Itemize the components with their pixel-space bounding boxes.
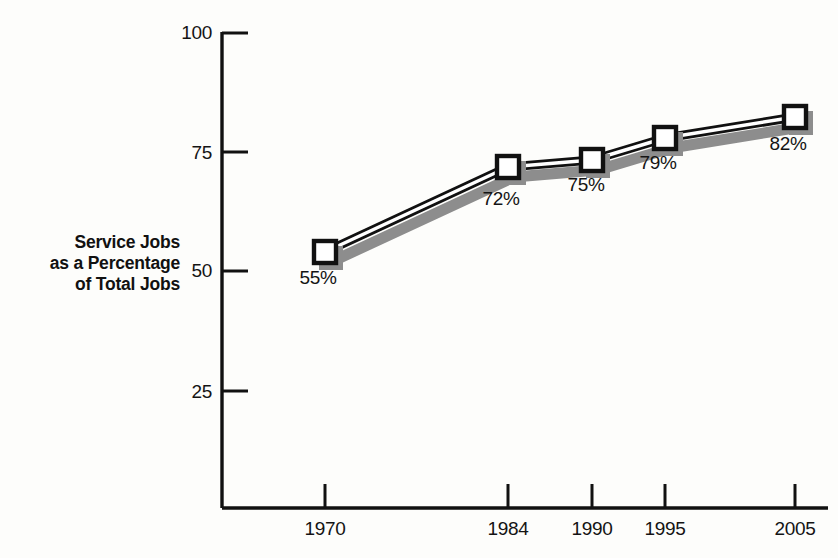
x-tick-label-1984: 1984 (473, 518, 543, 540)
marker-1995[interactable] (654, 127, 676, 149)
marker-1970[interactable] (314, 241, 336, 263)
marker-1984[interactable] (497, 156, 519, 178)
data-label-1990: 75% (556, 174, 616, 196)
data-label-1970: 55% (288, 267, 348, 289)
y-tick-label-25: 25 (160, 381, 212, 403)
y-tick-label-100: 100 (160, 22, 212, 44)
x-axis-ticks (325, 484, 795, 508)
y-tick-label-75: 75 (160, 142, 212, 164)
data-label-2005: 82% (758, 133, 818, 155)
chart-plot-area (0, 0, 838, 558)
y-tick-label-50: 50 (160, 260, 212, 282)
x-tick-label-2005: 2005 (760, 518, 830, 540)
data-label-1995: 79% (628, 152, 688, 174)
marker-2005[interactable] (784, 106, 806, 128)
x-tick-label-1995: 1995 (630, 518, 700, 540)
x-tick-label-1970: 1970 (290, 518, 360, 540)
x-tick-label-1990: 1990 (557, 518, 627, 540)
marker-1990[interactable] (581, 149, 603, 171)
y-axis-ticks (222, 33, 248, 391)
data-label-1984: 72% (471, 188, 531, 210)
chart-page: Service Jobs as a Percentage of Total Jo… (0, 0, 838, 558)
